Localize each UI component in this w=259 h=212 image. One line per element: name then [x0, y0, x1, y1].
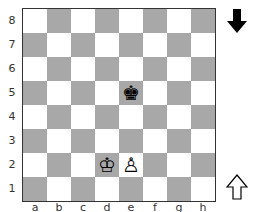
square-h4[interactable]: [191, 105, 215, 129]
square-h8[interactable]: [191, 9, 215, 33]
square-e5[interactable]: ♚: [119, 81, 143, 105]
square-g5[interactable]: [167, 81, 191, 105]
square-c8[interactable]: [71, 9, 95, 33]
square-g2[interactable]: [167, 153, 191, 177]
square-g8[interactable]: [167, 9, 191, 33]
square-c3[interactable]: [71, 129, 95, 153]
square-b7[interactable]: [47, 33, 71, 57]
file-label-f: f: [143, 202, 167, 212]
square-b6[interactable]: [47, 57, 71, 81]
square-d4[interactable]: [95, 105, 119, 129]
rank-label-6: 6: [6, 57, 18, 81]
square-b2[interactable]: [47, 153, 71, 177]
square-d1[interactable]: [95, 177, 119, 201]
square-f4[interactable]: [143, 105, 167, 129]
rank-label-2: 2: [6, 153, 18, 177]
square-b1[interactable]: [47, 177, 71, 201]
square-d8[interactable]: [95, 9, 119, 33]
square-f3[interactable]: [143, 129, 167, 153]
square-a7[interactable]: [23, 33, 47, 57]
rank-label-8: 8: [6, 9, 18, 33]
square-f7[interactable]: [143, 33, 167, 57]
square-e4[interactable]: [119, 105, 143, 129]
file-label-g: g: [167, 202, 191, 212]
square-g1[interactable]: [167, 177, 191, 201]
square-h7[interactable]: [191, 33, 215, 57]
square-g3[interactable]: [167, 129, 191, 153]
white-pawn-icon[interactable]: ♙: [119, 153, 143, 177]
square-h5[interactable]: [191, 81, 215, 105]
black-to-move-arrow-icon: [226, 8, 248, 34]
square-d3[interactable]: [95, 129, 119, 153]
square-e6[interactable]: [119, 57, 143, 81]
chess-board: ♚♔♙: [22, 8, 216, 202]
square-h6[interactable]: [191, 57, 215, 81]
square-b3[interactable]: [47, 129, 71, 153]
square-f1[interactable]: [143, 177, 167, 201]
square-c7[interactable]: [71, 33, 95, 57]
square-d7[interactable]: [95, 33, 119, 57]
square-c6[interactable]: [71, 57, 95, 81]
file-label-c: c: [71, 202, 95, 212]
file-label-e: e: [119, 202, 143, 212]
square-e2[interactable]: ♙: [119, 153, 143, 177]
square-f8[interactable]: [143, 9, 167, 33]
white-king-icon[interactable]: ♔: [95, 153, 119, 177]
square-a5[interactable]: [23, 81, 47, 105]
black-king-icon[interactable]: ♚: [119, 81, 143, 105]
rank-label-5: 5: [6, 81, 18, 105]
file-label-a: a: [23, 202, 47, 212]
square-f5[interactable]: [143, 81, 167, 105]
square-a3[interactable]: [23, 129, 47, 153]
rank-label-3: 3: [6, 129, 18, 153]
square-a4[interactable]: [23, 105, 47, 129]
square-e7[interactable]: [119, 33, 143, 57]
square-c4[interactable]: [71, 105, 95, 129]
square-d6[interactable]: [95, 57, 119, 81]
rank-label-7: 7: [6, 33, 18, 57]
square-d2[interactable]: ♔: [95, 153, 119, 177]
square-e8[interactable]: [119, 9, 143, 33]
square-a2[interactable]: [23, 153, 47, 177]
square-g7[interactable]: [167, 33, 191, 57]
square-f2[interactable]: [143, 153, 167, 177]
square-b4[interactable]: [47, 105, 71, 129]
square-d5[interactable]: [95, 81, 119, 105]
square-a8[interactable]: [23, 9, 47, 33]
file-label-b: b: [47, 202, 71, 212]
square-b5[interactable]: [47, 81, 71, 105]
square-e1[interactable]: [119, 177, 143, 201]
file-label-h: h: [191, 202, 215, 212]
rank-label-1: 1: [6, 177, 18, 201]
square-f6[interactable]: [143, 57, 167, 81]
square-b8[interactable]: [47, 9, 71, 33]
square-c2[interactable]: [71, 153, 95, 177]
square-g6[interactable]: [167, 57, 191, 81]
rank-label-4: 4: [6, 105, 18, 129]
square-h2[interactable]: [191, 153, 215, 177]
square-h3[interactable]: [191, 129, 215, 153]
white-side-arrow-icon: [226, 174, 248, 200]
square-h1[interactable]: [191, 177, 215, 201]
square-c5[interactable]: [71, 81, 95, 105]
square-c1[interactable]: [71, 177, 95, 201]
square-e3[interactable]: [119, 129, 143, 153]
square-a6[interactable]: [23, 57, 47, 81]
square-a1[interactable]: [23, 177, 47, 201]
square-g4[interactable]: [167, 105, 191, 129]
file-label-d: d: [95, 202, 119, 212]
